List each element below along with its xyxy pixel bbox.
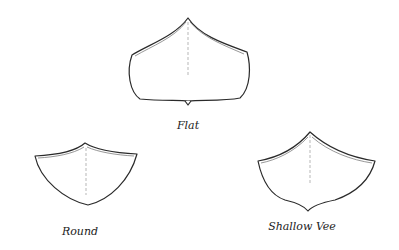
flat-hull-section xyxy=(129,18,249,105)
round-hull-label: Round xyxy=(62,225,98,238)
flat-hull-label: Flat xyxy=(177,119,199,132)
round-hull-section xyxy=(35,143,137,205)
hull-diagram xyxy=(0,0,399,250)
shallow-vee-hull-label: Shallow Vee xyxy=(268,220,336,233)
shallow-vee-hull-section xyxy=(258,132,375,211)
